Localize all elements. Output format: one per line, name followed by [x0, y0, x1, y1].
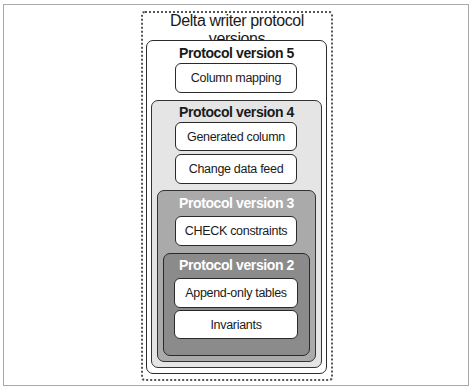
- feature-change-data-feed: Change data feed: [175, 154, 297, 184]
- protocol-version-3-label: Protocol version 3: [157, 195, 316, 211]
- feature-invariants: Invariants: [174, 310, 298, 339]
- feature-append-only-tables: Append-only tables: [174, 278, 298, 308]
- protocol-version-2-label: Protocol version 2: [163, 257, 310, 273]
- protocol-version-5-label: Protocol version 5: [146, 45, 327, 61]
- feature-generated-column: Generated column: [175, 122, 297, 151]
- feature-column-mapping: Column mapping: [175, 63, 297, 93]
- feature-check-constraints: CHECK constraints: [175, 216, 297, 246]
- protocol-version-4-label: Protocol version 4: [151, 104, 322, 120]
